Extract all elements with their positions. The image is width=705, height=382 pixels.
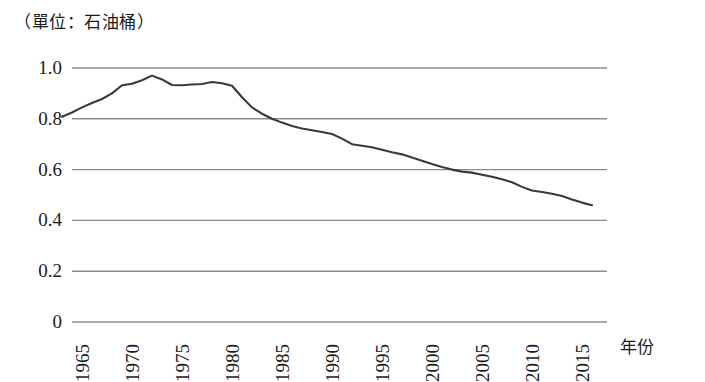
y-tick-0.8: 0.8 bbox=[16, 109, 62, 128]
x-tick-1980: 1980 bbox=[223, 344, 242, 382]
x-tick-1990: 1990 bbox=[323, 344, 342, 382]
x-tick-1975: 1975 bbox=[173, 344, 192, 382]
data-series bbox=[62, 76, 592, 206]
x-tick-2000: 2000 bbox=[423, 344, 442, 382]
x-tick-1995: 1995 bbox=[373, 344, 392, 382]
series-line-0 bbox=[62, 76, 592, 206]
y-tick-0.6: 0.6 bbox=[16, 160, 62, 179]
x-tick-1970: 1970 bbox=[123, 344, 142, 382]
x-tick-1965: 1965 bbox=[73, 344, 92, 382]
x-axis-title: 年份 bbox=[620, 338, 654, 358]
y-tick-0.4: 0.4 bbox=[16, 210, 62, 229]
y-tick-0: 0 bbox=[16, 312, 62, 331]
gridlines bbox=[72, 68, 607, 322]
y-tick-1.0: 1.0 bbox=[16, 58, 62, 77]
x-tick-2015: 2015 bbox=[573, 344, 592, 382]
x-tick-1985: 1985 bbox=[273, 344, 292, 382]
x-tick-2010: 2010 bbox=[523, 344, 542, 382]
x-tick-2005: 2005 bbox=[473, 344, 492, 382]
y-tick-0.2: 0.2 bbox=[16, 261, 62, 280]
